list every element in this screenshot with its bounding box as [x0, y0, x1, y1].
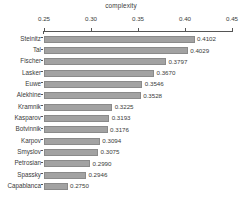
category-tick — [41, 82, 43, 83]
bar[interactable] — [44, 47, 188, 54]
category-label: Smyslov — [17, 148, 41, 155]
category-label: Alekhine — [17, 91, 41, 98]
category-tick — [41, 94, 43, 95]
bar-row: Fischer0.3797 — [0, 57, 242, 68]
bar-value-label: 0.3225 — [115, 103, 134, 110]
bar-value-label: 0.3075 — [101, 148, 120, 155]
bar-value-label: 0.2990 — [93, 160, 112, 167]
bar-row: Smyslov0.3075 — [0, 147, 242, 158]
bar-row: Tal0.4029 — [0, 46, 242, 57]
bar-row: Lasker0.3670 — [0, 68, 242, 79]
category-label: Petrosian — [14, 159, 41, 166]
bar[interactable] — [44, 104, 112, 111]
category-tick — [41, 105, 43, 106]
bar[interactable] — [44, 115, 109, 122]
bar-row: Euwe0.3546 — [0, 79, 242, 90]
bar-row: Spassky0.2946 — [0, 170, 242, 181]
bar-row: Kasparov0.3193 — [0, 113, 242, 124]
plot-area: 0.250.300.350.400.45 Steinitz0.4102Tal0.… — [0, 0, 242, 202]
bar-value-label: 0.3094 — [102, 137, 121, 144]
category-label: Kasparov — [14, 114, 41, 121]
bar-row: Petrosian0.2990 — [0, 159, 242, 170]
bar-row: Kramnik0.3225 — [0, 102, 242, 113]
bar-value-label: 0.3528 — [143, 92, 162, 99]
bar-value-label: 0.2946 — [88, 171, 107, 178]
bar[interactable] — [44, 58, 166, 65]
bar-value-label: 0.3797 — [168, 58, 187, 65]
bar-value-label: 0.3193 — [112, 114, 131, 121]
bar[interactable] — [44, 138, 100, 145]
category-tick — [41, 150, 43, 151]
category-label: Spassky — [17, 171, 41, 178]
x-axis-tick — [138, 28, 139, 31]
category-label: Tal — [33, 46, 41, 53]
bar-value-label: 0.3670 — [156, 69, 175, 76]
bar-row: Botvinnik0.3176 — [0, 125, 242, 136]
x-axis-tick — [185, 28, 186, 31]
x-axis-tick-label: 0.45 — [226, 15, 238, 22]
category-tick — [41, 60, 43, 61]
category-tick — [41, 162, 43, 163]
complexity-bar-chart: complexity 0.250.300.350.400.45 Steinitz… — [0, 0, 242, 202]
bar-value-label: 0.3546 — [145, 80, 164, 87]
x-axis-line — [43, 31, 233, 32]
x-axis-tick — [91, 28, 92, 31]
bar-row: Capablanca0.2750 — [0, 181, 242, 192]
x-axis-tick-label: 0.25 — [38, 15, 50, 22]
x-axis-tick-label: 0.35 — [132, 15, 144, 22]
bar-value-label: 0.4102 — [197, 35, 216, 42]
bar[interactable] — [44, 149, 98, 156]
bar-value-label: 0.4029 — [190, 47, 209, 54]
category-label: Fischer — [20, 57, 41, 64]
category-tick — [41, 184, 43, 185]
bar-value-label: 0.3176 — [110, 126, 129, 133]
category-label: Capablanca — [7, 182, 41, 189]
bar[interactable] — [44, 172, 86, 179]
bar-row: Steinitz0.4102 — [0, 34, 242, 45]
category-tick — [41, 116, 43, 117]
bar[interactable] — [44, 126, 108, 133]
category-label: Lasker — [22, 69, 41, 76]
bar[interactable] — [44, 183, 68, 190]
x-axis-tick — [232, 28, 233, 31]
category-tick — [41, 173, 43, 174]
x-axis-tick — [44, 28, 45, 31]
category-label: Kramnik — [18, 103, 41, 110]
bar-row: Karpov0.3094 — [0, 136, 242, 147]
category-label: Karpov — [21, 137, 41, 144]
category-tick — [41, 71, 43, 72]
category-tick — [41, 49, 43, 50]
category-tick — [41, 128, 43, 129]
bar-row: Alekhine0.3528 — [0, 91, 242, 102]
bar[interactable] — [44, 70, 154, 77]
category-tick — [41, 37, 43, 38]
bar[interactable] — [44, 81, 142, 88]
x-axis-tick-label: 0.30 — [85, 15, 97, 22]
category-tick — [41, 139, 43, 140]
bar[interactable] — [44, 92, 141, 99]
bar[interactable] — [44, 160, 90, 167]
category-label: Steinitz — [20, 35, 41, 42]
bar-value-label: 0.2750 — [70, 182, 89, 189]
category-label: Botvinnik — [15, 125, 41, 132]
category-label: Euwe — [25, 80, 41, 87]
x-axis-tick-label: 0.40 — [179, 15, 191, 22]
bar[interactable] — [44, 36, 195, 43]
